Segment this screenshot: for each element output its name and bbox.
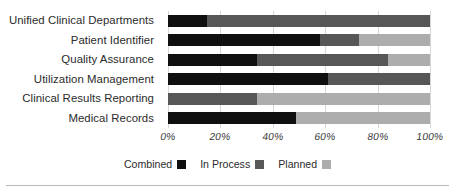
plot-area bbox=[168, 11, 430, 128]
category-label: Unified Clinical Departments bbox=[0, 14, 160, 27]
bar-segment-planned[interactable] bbox=[296, 112, 430, 124]
x-tick-label: 60% bbox=[314, 131, 337, 142]
chart-legend: CombinedIn ProcessPlanned bbox=[0, 158, 455, 170]
legend-item-in-process[interactable]: In Process bbox=[200, 158, 264, 170]
legend-item-combined[interactable]: Combined bbox=[124, 158, 186, 170]
bar-row[interactable] bbox=[168, 34, 430, 46]
legend-label: Planned bbox=[278, 158, 317, 170]
bar-rows bbox=[168, 11, 430, 128]
bar-segment-in-process[interactable] bbox=[168, 93, 257, 105]
x-tick-label: 40% bbox=[261, 131, 284, 142]
bar-row[interactable] bbox=[168, 15, 430, 27]
stacked-bar-chart: Unified Clinical Departments Patient Ide… bbox=[0, 0, 455, 193]
x-tick-label: 20% bbox=[209, 131, 232, 142]
bar-segment-combined[interactable] bbox=[168, 73, 328, 85]
bar-segment-in-process[interactable] bbox=[320, 34, 359, 46]
legend-swatch-icon bbox=[322, 160, 331, 169]
bar-segment-planned[interactable] bbox=[359, 34, 430, 46]
legend-swatch-icon bbox=[177, 160, 186, 169]
bar-segment-planned[interactable] bbox=[257, 93, 430, 105]
x-axis-labels: 0%20%40%60%80%100% bbox=[168, 131, 430, 153]
legend-swatch-icon bbox=[255, 160, 264, 169]
legend-label: In Process bbox=[200, 158, 250, 170]
legend-item-planned[interactable]: Planned bbox=[278, 158, 331, 170]
category-label: Medical Records bbox=[0, 112, 160, 125]
x-tick-label: 0% bbox=[160, 131, 177, 142]
category-axis-labels: Unified Clinical Departments Patient Ide… bbox=[0, 11, 160, 128]
bar-row[interactable] bbox=[168, 112, 430, 124]
bar-segment-planned[interactable] bbox=[388, 54, 430, 66]
x-tick-label: 100% bbox=[416, 131, 445, 142]
bar-row[interactable] bbox=[168, 54, 430, 66]
gridline bbox=[430, 11, 431, 128]
legend-label: Combined bbox=[124, 158, 172, 170]
category-label: Patient Identifier bbox=[0, 34, 160, 47]
x-tick-label: 80% bbox=[366, 131, 389, 142]
bar-row[interactable] bbox=[168, 73, 430, 85]
category-label: Utilization Management bbox=[0, 73, 160, 86]
bar-segment-combined[interactable] bbox=[168, 15, 207, 27]
category-label: Clinical Results Reporting bbox=[0, 92, 160, 105]
bar-segment-in-process[interactable] bbox=[207, 15, 430, 27]
bar-segment-in-process[interactable] bbox=[257, 54, 388, 66]
bottom-divider bbox=[6, 185, 449, 186]
bar-segment-combined[interactable] bbox=[168, 54, 257, 66]
bar-segment-in-process[interactable] bbox=[328, 73, 430, 85]
bar-segment-combined[interactable] bbox=[168, 34, 320, 46]
bar-segment-combined[interactable] bbox=[168, 112, 296, 124]
bar-row[interactable] bbox=[168, 93, 430, 105]
category-label: Quality Assurance bbox=[0, 53, 160, 66]
